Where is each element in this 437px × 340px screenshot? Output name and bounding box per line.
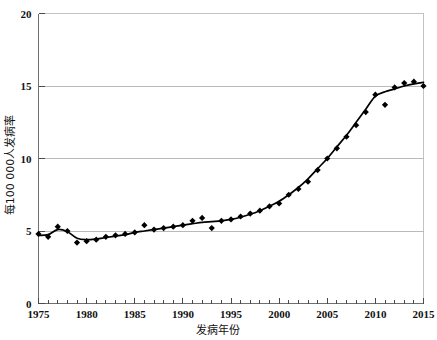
- data-point-2015: [420, 83, 426, 89]
- data-point-1993: [209, 225, 215, 231]
- x-tick-label-2000: 2000: [268, 308, 291, 320]
- data-point-1996: [238, 213, 244, 219]
- x-tick-label-2010: 2010: [364, 308, 387, 320]
- data-point-2008: [353, 122, 359, 128]
- chart-canvas: 197519801985199019952000200520102015 051…: [0, 0, 437, 340]
- y-axis-title: 每100 000人发病率: [3, 115, 17, 216]
- data-point-1994: [218, 218, 224, 224]
- data-point-1979: [74, 240, 80, 246]
- data-point-2004: [315, 167, 321, 173]
- y-tick-label-5: 5: [26, 225, 32, 237]
- y-axis-tick-labels: 05101520: [21, 8, 33, 310]
- data-point-1989: [170, 224, 176, 230]
- x-axis-ticks: [39, 298, 424, 304]
- data-point-1986: [141, 222, 147, 228]
- x-axis-title: 发病年份: [196, 323, 240, 337]
- trend-line: [39, 82, 424, 239]
- y-tick-label-15: 15: [21, 80, 33, 92]
- data-point-1985: [132, 229, 138, 235]
- data-point-2010: [372, 92, 378, 98]
- data-point-1988: [161, 225, 167, 231]
- x-tick-label-1990: 1990: [172, 308, 195, 320]
- data-point-1982: [103, 234, 109, 240]
- data-point-2003: [305, 179, 311, 185]
- x-tick-label-2015: 2015: [413, 308, 436, 320]
- y-tick-label-0: 0: [26, 298, 32, 310]
- x-axis-tick-labels: 197519801985199019952000200520102015: [28, 308, 436, 320]
- data-point-2000: [276, 200, 282, 206]
- x-tick-label-1980: 1980: [76, 308, 99, 320]
- incidence-rate-chart: 197519801985199019952000200520102015 051…: [0, 0, 437, 340]
- data-points: [35, 79, 426, 246]
- data-point-1984: [122, 231, 128, 237]
- y-tick-label-20: 20: [21, 8, 33, 20]
- data-point-1999: [266, 203, 272, 209]
- data-point-1987: [151, 226, 157, 232]
- data-point-2011: [382, 102, 388, 108]
- data-point-1998: [257, 208, 263, 214]
- x-tick-label-1995: 1995: [220, 308, 243, 320]
- data-point-1992: [199, 215, 205, 221]
- data-point-1990: [180, 222, 186, 228]
- x-tick-label-2005: 2005: [316, 308, 339, 320]
- data-point-1983: [112, 232, 118, 238]
- data-point-1981: [93, 237, 99, 243]
- x-tick-label-1985: 1985: [124, 308, 147, 320]
- data-point-1995: [228, 216, 234, 222]
- y-tick-label-10: 10: [21, 153, 33, 165]
- trend-curve: [39, 82, 424, 239]
- y-axis-ticks: [39, 14, 45, 304]
- data-point-2009: [363, 109, 369, 115]
